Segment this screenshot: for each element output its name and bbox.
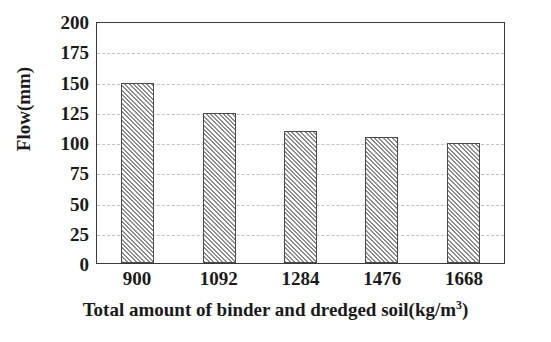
bar[interactable] [365, 137, 398, 263]
bar[interactable] [284, 131, 317, 263]
y-axis-title: Flow(mm) [13, 44, 35, 174]
x-axis-tick-label: 900 [96, 268, 178, 290]
x-axis-tick-label: 1284 [260, 268, 342, 290]
bar[interactable] [203, 113, 236, 263]
bars-layer [97, 23, 504, 263]
x-axis-tick-label: 1668 [423, 268, 505, 290]
bar[interactable] [121, 83, 154, 263]
bar[interactable] [447, 143, 480, 263]
x-axis-tick-label: 1092 [178, 268, 260, 290]
bar-slot [423, 23, 504, 263]
y-axis-tick-label: 150 [34, 73, 89, 92]
x-axis-title-main: Total amount of binder and dredged soil(… [83, 299, 456, 320]
x-axis-tick-labels: 9001092128414761668 [96, 268, 505, 290]
bar-slot [97, 23, 178, 263]
y-axis-tick-label: 75 [34, 164, 89, 183]
y-axis-tick-labels: 0255075100125150175200 [34, 22, 89, 264]
bar-chart-figure: Flow(mm) 0255075100125150175200 90010921… [0, 0, 551, 342]
x-axis-title-suffix: ) [462, 299, 468, 320]
y-axis-tick-label: 125 [34, 103, 89, 122]
y-axis-tick-label: 100 [34, 134, 89, 153]
y-axis-tick-label: 0 [34, 255, 89, 274]
bar-slot [260, 23, 341, 263]
plot-area [96, 22, 505, 264]
y-axis-tick-label: 175 [34, 43, 89, 62]
y-axis-tick-label: 50 [34, 194, 89, 213]
bar-slot [178, 23, 259, 263]
y-axis-tick-label: 200 [34, 13, 89, 32]
y-axis-tick-label: 25 [34, 224, 89, 243]
x-axis-tick-label: 1476 [341, 268, 423, 290]
bar-slot [341, 23, 422, 263]
x-axis-title: Total amount of binder and dredged soil(… [0, 299, 551, 321]
